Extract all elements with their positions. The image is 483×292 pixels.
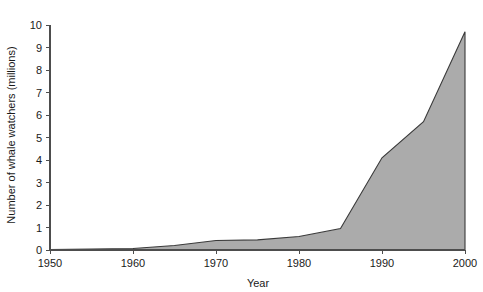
- x-tick-label: 1990: [370, 257, 394, 269]
- y-axis-title: Number of whale watchers (millions): [5, 46, 17, 223]
- x-tick-label: 1970: [204, 257, 228, 269]
- y-tick-label: 7: [36, 87, 42, 99]
- y-tick-label: 5: [36, 132, 42, 144]
- x-axis-title: Year: [247, 277, 270, 289]
- x-tick-label: 2000: [453, 257, 477, 269]
- x-tick-label: 1960: [121, 257, 145, 269]
- y-tick-label: 9: [36, 42, 42, 54]
- y-tick-label: 6: [36, 109, 42, 121]
- y-tick-label: 1: [36, 222, 42, 234]
- y-tick-label: 0: [36, 244, 42, 256]
- y-tick-label: 2: [36, 199, 42, 211]
- chart-canvas: 012345678910 195019601970198019902000 Nu…: [0, 0, 483, 292]
- x-tick-label: 1980: [287, 257, 311, 269]
- x-tick-label: 1950: [38, 257, 62, 269]
- y-tick-label: 10: [30, 19, 42, 31]
- y-tick-label: 3: [36, 177, 42, 189]
- whale-watchers-area-chart: 012345678910 195019601970198019902000 Nu…: [0, 0, 483, 292]
- y-tick-label: 4: [36, 154, 42, 166]
- y-tick-label: 8: [36, 64, 42, 76]
